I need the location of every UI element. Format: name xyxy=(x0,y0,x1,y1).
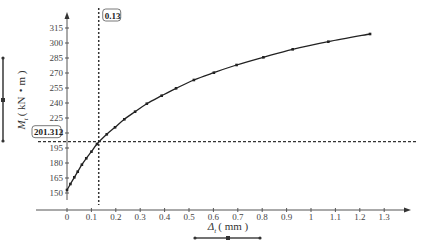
x-tick-label: 0.4 xyxy=(159,212,171,222)
data-point-marker xyxy=(90,150,93,153)
data-point-marker xyxy=(85,157,88,160)
data-point-marker xyxy=(327,40,330,43)
data-point-marker xyxy=(175,87,178,90)
y-tick-label: 270 xyxy=(50,68,64,78)
y-range-slider[interactable] xyxy=(1,56,5,142)
y-tick-label: 195 xyxy=(50,143,64,153)
y-tick-label: 165 xyxy=(50,173,64,183)
y-tick-label: 255 xyxy=(50,83,64,93)
y-range-handle[interactable] xyxy=(1,98,5,102)
x-tick-label: 0 xyxy=(65,212,70,222)
data-point-marker xyxy=(145,102,148,105)
data-point-marker xyxy=(114,126,117,129)
x-tick-label: 0.1 xyxy=(86,212,97,222)
data-curve xyxy=(67,34,370,190)
x-tick-label: 0.9 xyxy=(281,212,293,222)
data-point-marker xyxy=(262,56,265,59)
data-point-marker xyxy=(123,118,126,121)
x-axis-title: Δt( mm ) xyxy=(207,220,249,235)
data-point-marker xyxy=(69,183,72,186)
vline-value-box: 0.13 xyxy=(103,9,121,21)
vline-value-label: 0.13 xyxy=(105,11,121,21)
y-tick-label: 150 xyxy=(50,188,64,198)
data-point-marker xyxy=(76,170,79,173)
data-point-marker xyxy=(81,163,84,166)
y-axis: 150165180195210225240255270285300315 xyxy=(50,12,70,200)
hline-value-box: 201.312 xyxy=(32,126,64,138)
data-point-marker xyxy=(96,143,99,146)
hline-value-label: 201.312 xyxy=(34,127,64,137)
x-tick-label: 1.1 xyxy=(330,212,341,222)
x-tick-label: 1.3 xyxy=(379,212,391,222)
y-axis-title: Mt( kN・m ) xyxy=(15,70,30,130)
data-point-marker xyxy=(291,48,294,51)
data-point-marker xyxy=(235,64,238,67)
y-tick-label: 285 xyxy=(50,53,64,63)
data-point-marker xyxy=(105,133,108,136)
data-point-marker xyxy=(66,189,69,192)
data-point-marker xyxy=(160,94,163,97)
x-tick-label: 1.2 xyxy=(354,212,365,222)
chart-canvas: 150165180195210225240255270285300315 00.… xyxy=(0,0,423,250)
x-tick-label: 0.5 xyxy=(183,212,195,222)
x-tick-label: 0.8 xyxy=(257,212,269,222)
y-axis-arrow-icon xyxy=(65,12,70,19)
data-point-marker xyxy=(134,110,137,113)
x-tick-label: 0.2 xyxy=(110,212,121,222)
y-tick-label: 180 xyxy=(50,158,64,168)
data-point-marker xyxy=(369,33,372,36)
data-markers xyxy=(66,33,372,192)
data-point-marker xyxy=(73,176,76,179)
y-tick-label: 225 xyxy=(50,113,64,123)
x-tick-label: 1 xyxy=(309,212,314,222)
x-tick-label: 0.3 xyxy=(135,212,147,222)
x-axis-arrow-icon xyxy=(404,208,411,213)
y-tick-label: 315 xyxy=(50,23,64,33)
y-tick-label: 240 xyxy=(50,98,64,108)
x-range-slider[interactable] xyxy=(193,236,261,240)
data-point-marker xyxy=(213,71,216,74)
data-point-marker xyxy=(193,79,196,82)
x-range-handle[interactable] xyxy=(226,236,230,240)
y-tick-label: 300 xyxy=(50,38,64,48)
